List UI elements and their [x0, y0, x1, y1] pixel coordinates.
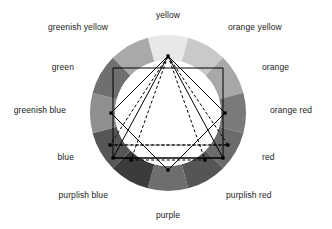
vertex-top [166, 54, 169, 57]
vertex-dash-bl [129, 158, 132, 161]
hue-label-greenish-blue: greenish blue [14, 105, 66, 115]
inner-white-disc [115, 60, 221, 166]
vertex-bottom [166, 168, 169, 171]
hue-label-blue: blue [58, 152, 74, 162]
vertex-dash-r [226, 143, 229, 146]
hue-label-orange: orange [262, 62, 289, 72]
hue-label-orange-yellow: orange yellow [228, 22, 282, 32]
vertex-right [223, 111, 226, 114]
hue-label-purple: purple [156, 210, 180, 220]
hue-label-red: red [262, 152, 275, 162]
hue-segment-yellow [148, 35, 188, 62]
hue-label-yellow: yellow [156, 10, 180, 20]
hue-label-purplish-blue: purplish blue [59, 190, 109, 200]
color-wheel-figure: yelloworange yelloworangeorange redredpu… [0, 0, 332, 229]
hue-label-green: green [52, 62, 74, 72]
vertex-rect-br [221, 156, 224, 159]
vertex-rect-bl [111, 156, 114, 159]
hue-segment-purple [148, 164, 188, 191]
vertex-dash-br [203, 158, 206, 161]
vertex-dash-l [108, 143, 111, 146]
hue-label-orange-red: orange red [270, 105, 312, 115]
hue-label-purplish-red: purplish red [226, 190, 272, 200]
hue-label-greenish-yellow: greenish yellow [48, 22, 108, 32]
vertex-left [109, 111, 112, 114]
